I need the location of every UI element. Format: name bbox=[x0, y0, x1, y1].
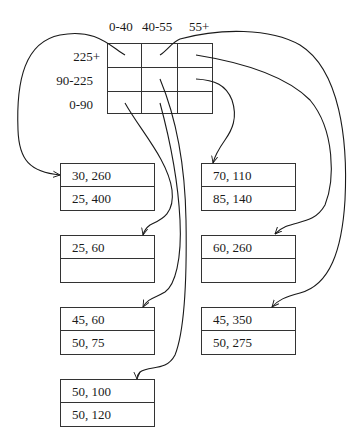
bucket-record: 50, 120 bbox=[61, 403, 154, 426]
grid-cell bbox=[142, 92, 178, 113]
bucket-r3: 45, 350 50, 275 bbox=[201, 307, 296, 355]
column-header-40-55: 40-55 bbox=[142, 20, 172, 34]
bucket-record: 60, 260 bbox=[202, 236, 295, 259]
bucket-record bbox=[61, 259, 154, 282]
grid-cell bbox=[108, 44, 142, 68]
grid-file-diagram: 0-40 40-55 55+ 225+ 90-225 0-90 30, 260 … bbox=[0, 0, 358, 447]
grid-cell bbox=[108, 92, 142, 113]
bucket-record: 30, 260 bbox=[61, 164, 154, 187]
column-header-0-40: 0-40 bbox=[109, 20, 133, 34]
bucket-record: 25, 400 bbox=[61, 187, 154, 210]
bucket-record: 25, 60 bbox=[61, 236, 154, 259]
grid-cell bbox=[178, 68, 212, 92]
bucket-record bbox=[202, 259, 295, 282]
row-header-225-plus: 225+ bbox=[40, 50, 100, 64]
bucket-r1: 70, 110 85, 140 bbox=[201, 163, 296, 211]
bucket-record: 85, 140 bbox=[202, 187, 295, 210]
row-header-90-225: 90-225 bbox=[33, 74, 93, 88]
grid-cell bbox=[178, 44, 212, 68]
bucket-l1: 30, 260 25, 400 bbox=[60, 163, 155, 211]
bucket-record: 50, 275 bbox=[202, 331, 295, 354]
bucket-record: 45, 60 bbox=[61, 308, 154, 331]
bucket-l4: 50, 100 50, 120 bbox=[60, 379, 155, 427]
bucket-r2: 60, 260 bbox=[201, 235, 296, 283]
grid-cell bbox=[142, 44, 178, 68]
column-header-55-plus: 55+ bbox=[189, 20, 209, 34]
bucket-record: 50, 75 bbox=[61, 331, 154, 354]
bucket-record: 45, 350 bbox=[202, 308, 295, 331]
grid-directory bbox=[107, 43, 213, 114]
grid-cell bbox=[178, 92, 212, 113]
bucket-record: 50, 100 bbox=[61, 380, 154, 403]
row-header-0-90: 0-90 bbox=[33, 98, 93, 112]
bucket-record: 70, 110 bbox=[202, 164, 295, 187]
grid-cell bbox=[108, 68, 142, 92]
grid-cell bbox=[142, 68, 178, 92]
bucket-l2: 25, 60 bbox=[60, 235, 155, 283]
bucket-l3: 45, 60 50, 75 bbox=[60, 307, 155, 355]
